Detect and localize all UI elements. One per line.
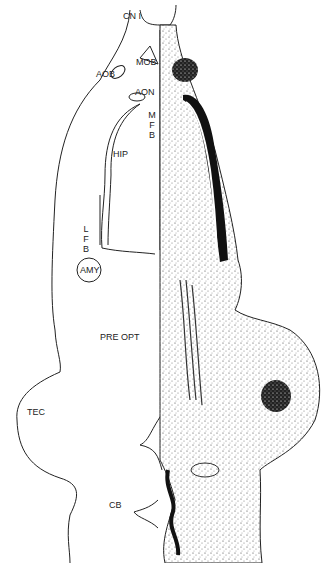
brain-section-figure: CN I MOB AOB AON M F B HIP L F B AMY PRE…: [0, 0, 331, 563]
stained-section: [160, 25, 320, 563]
label-mfb: M F B: [148, 110, 156, 140]
label-mob: MOB: [136, 58, 157, 67]
label-amy: AMY: [80, 266, 100, 275]
label-cb: CB: [109, 501, 122, 510]
diagram-outline: [0, 0, 331, 563]
label-aob: AOB: [96, 70, 115, 79]
label-lfb: L F B: [82, 224, 90, 254]
label-hip: HIP: [113, 150, 128, 159]
label-tec: TEC: [27, 408, 45, 417]
label-pre-opt: PRE OPT: [100, 333, 140, 342]
label-cn1: CN I: [123, 12, 141, 21]
label-aon: AON: [135, 88, 155, 97]
